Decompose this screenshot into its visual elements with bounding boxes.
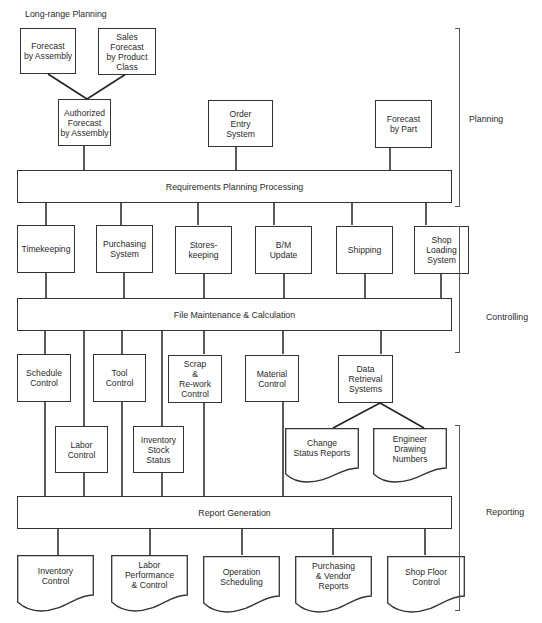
sales-forecast-box: Sales Forecast by Product Class [98,28,156,75]
data-retrieval-systems-box: Data Retrieval Systems [338,355,393,403]
scrap-rework-control-box: Scrap & Re-work Control [168,355,222,403]
long-range-planning-label: Long-range Planning [25,9,107,19]
purchasing-system-box: Purchasing System [96,225,153,273]
shop-loading-system-box: Shop Loading System [414,226,469,274]
controlling-bracket [455,226,460,353]
reporting-phase-label: Reporting [486,507,524,517]
material-control-box: Material Control [245,355,299,402]
controlling-phase-label: Controlling [486,312,528,322]
shipping-box: Shipping [336,226,393,274]
requirements-planning-bar: Requirements Planning Processing [17,170,452,203]
authorized-forecast-box: Authorized Forecast by Assembly [58,99,111,146]
order-entry-box: Order Entry System [208,100,273,147]
change-status-reports-doc: Change Status Reports [285,428,359,484]
storekeeping-box: Stores- keeping [175,226,232,274]
timekeeping-box: Timekeeping [17,225,75,273]
bm-update-box: B/M Update [255,226,312,274]
forecast-by-assembly-box: Forecast by Assembly [20,28,76,74]
report-generation-bar: Report Generation [17,496,452,529]
labor-performance-doc: Labor Performance & Control [111,555,188,613]
inventory-control-doc: Inventory Control [17,555,94,613]
file-maintenance-bar: File Maintenance & Calculation [17,298,452,331]
shop-floor-control-doc: Shop Floor Control [387,556,465,614]
forecast-by-part-box: Forecast by Part [375,100,432,148]
purchasing-vendor-reports-doc: Purchasing & Vendor Reports [295,556,372,614]
schedule-control-box: Schedule Control [17,354,71,402]
inventory-stock-status-box: Inventory Stock Status [133,426,184,473]
tool-control-box: Tool Control [93,354,146,402]
planning-phase-label: Planning [469,114,503,124]
operation-scheduling-doc: Operation Scheduling [203,556,280,614]
reporting-bracket [455,425,460,611]
labor-control-box: Labor Control [55,426,108,473]
planning-bracket [455,28,460,207]
engineer-drawing-numbers-doc: Engineer Drawing Numbers [373,428,447,484]
